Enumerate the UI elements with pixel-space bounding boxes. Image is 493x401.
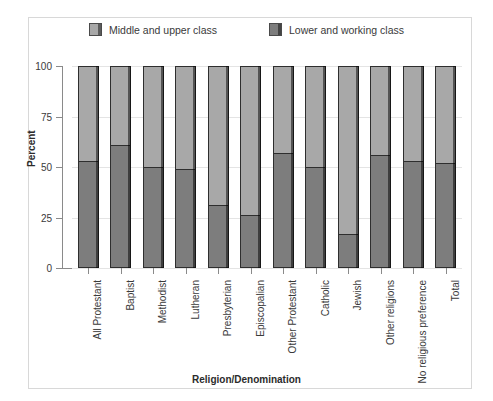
x-tick-label-jewish: Jewish: [352, 280, 363, 311]
y-tick-label-25: 25: [41, 212, 52, 223]
bar-segment-lower-working-class: [370, 155, 391, 268]
x-tick-label-other-protestant: Other Protestant: [287, 280, 298, 353]
y-tick-mark-25: [56, 218, 62, 219]
bar-segment-divider: [240, 215, 261, 216]
y-tick-label-50: 50: [41, 162, 52, 173]
bar-segment-middle-upper-class: [273, 66, 294, 153]
y-tick-mark-0: [56, 268, 62, 269]
bar-methodist[interactable]: [143, 66, 164, 268]
x-tick-label-all-protestant: All Protestant: [92, 280, 103, 339]
bar-segment-middle-upper-class: [78, 66, 99, 161]
x-tick-mark-2: [153, 268, 154, 274]
x-axis-title: Religion/Denomination: [0, 374, 493, 385]
bar-segment-middle-upper-class: [403, 66, 424, 161]
bar-other-religions[interactable]: [370, 66, 391, 268]
bar-segment-middle-upper-class: [305, 66, 326, 167]
bar-segment-middle-upper-class: [370, 66, 391, 155]
bar-segment-lower-working-class: [78, 161, 99, 268]
bar-segment-divider: [273, 153, 294, 154]
bar-no-religious-preference[interactable]: [403, 66, 424, 268]
bar-segment-divider: [338, 234, 359, 235]
bar-segment-divider: [78, 161, 99, 162]
bar-presbyterian[interactable]: [208, 66, 229, 268]
bar-baptist[interactable]: [110, 66, 131, 268]
bar-segment-lower-working-class: [435, 163, 456, 268]
gridline-y-0: [72, 268, 462, 269]
x-tick-mark-5: [251, 268, 252, 274]
bar-segment-middle-upper-class: [175, 66, 196, 169]
bar-segment-middle-upper-class: [110, 66, 131, 145]
x-tick-label-lutheran: Lutheran: [190, 280, 201, 319]
bar-segment-divider: [110, 145, 131, 146]
bar-segment-divider: [175, 169, 196, 170]
bar-catholic[interactable]: [305, 66, 326, 268]
bar-segment-lower-working-class: [175, 169, 196, 268]
y-tick-mark-50: [56, 167, 62, 168]
bar-segment-divider: [305, 167, 326, 168]
y-tick-mark-100: [56, 66, 62, 67]
bar-segment-lower-working-class: [208, 205, 229, 268]
bar-segment-divider: [143, 167, 164, 168]
bar-segment-lower-working-class: [240, 215, 261, 268]
y-tick-label-75: 75: [41, 111, 52, 122]
x-tick-label-presbyterian: Presbyterian: [222, 280, 233, 336]
bar-segment-lower-working-class: [305, 167, 326, 268]
bar-segment-middle-upper-class: [435, 66, 456, 163]
x-tick-label-methodist: Methodist: [157, 280, 168, 323]
y-axis-line: [62, 66, 63, 268]
x-tick-label-total: Total: [450, 280, 461, 301]
bar-segment-lower-working-class: [110, 145, 131, 268]
bar-segment-lower-working-class: [403, 161, 424, 268]
x-tick-label-catholic: Catholic: [320, 280, 331, 316]
bar-segment-divider: [403, 161, 424, 162]
x-tick-mark-4: [218, 268, 219, 274]
x-tick-mark-8: [348, 268, 349, 274]
x-tick-mark-0: [88, 268, 89, 274]
y-tick-label-0: 0: [46, 263, 52, 274]
x-tick-label-episcopalian: Episcopalian: [255, 280, 266, 337]
x-tick-mark-9: [381, 268, 382, 274]
bar-segment-middle-upper-class: [208, 66, 229, 205]
plot-area: [72, 66, 462, 268]
plot-wrapper: 0255075100All ProtestantBaptistMethodist…: [72, 66, 462, 268]
x-tick-mark-1: [121, 268, 122, 274]
y-axis-title: Percent: [26, 130, 37, 167]
bar-lutheran[interactable]: [175, 66, 196, 268]
bar-segment-lower-working-class: [338, 234, 359, 268]
x-tick-label-other-religions: Other religions: [385, 280, 396, 345]
bar-segment-lower-working-class: [273, 153, 294, 268]
bar-segment-divider: [435, 163, 456, 164]
x-tick-label-baptist: Baptist: [125, 280, 136, 311]
bar-all-protestant[interactable]: [78, 66, 99, 268]
bar-segment-middle-upper-class: [338, 66, 359, 234]
x-tick-mark-6: [283, 268, 284, 274]
bar-episcopalian[interactable]: [240, 66, 261, 268]
bar-segment-divider: [370, 155, 391, 156]
x-tick-mark-10: [413, 268, 414, 274]
x-tick-mark-7: [316, 268, 317, 274]
bar-segment-middle-upper-class: [143, 66, 164, 167]
bar-segment-divider: [208, 205, 229, 206]
y-tick-mark-75: [56, 117, 62, 118]
chart-figure: Middle and upper class Lower and working…: [0, 0, 493, 401]
bar-other-protestant[interactable]: [273, 66, 294, 268]
x-tick-mark-3: [186, 268, 187, 274]
bar-segment-lower-working-class: [143, 167, 164, 268]
y-tick-label-100: 100: [35, 61, 52, 72]
bar-jewish[interactable]: [338, 66, 359, 268]
x-tick-label-no-religious-preference: No religious preference: [417, 280, 428, 383]
x-tick-mark-11: [446, 268, 447, 274]
bar-segment-middle-upper-class: [240, 66, 261, 215]
bar-total[interactable]: [435, 66, 456, 268]
